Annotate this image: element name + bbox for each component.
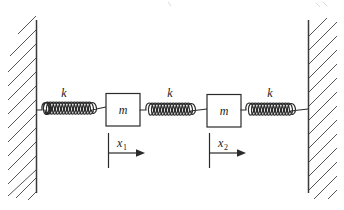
spring-3: k — [241, 86, 308, 115]
x1-label: x — [116, 136, 123, 150]
x2-arrow-head — [237, 149, 246, 157]
coordinate-x1: x 1 — [109, 133, 146, 168]
spring-2: k — [140, 86, 207, 115]
mass-1: m — [106, 94, 140, 127]
mass-2: m — [207, 95, 241, 128]
mass-1-label: m — [119, 103, 128, 117]
left-wall-group — [8, 16, 37, 200]
spring-3-label: k — [267, 86, 273, 100]
x1-label-subscript: 1 — [123, 143, 127, 152]
spring-2-coil — [140, 103, 207, 115]
left-wall-hatching — [8, 16, 36, 200]
spring-mass-diagram: k m k m k x 1 — [0, 0, 344, 210]
x2-label-subscript: 2 — [224, 143, 228, 152]
right-wall-group — [309, 18, 338, 199]
mass-2-label: m — [220, 104, 229, 118]
x2-label: x — [217, 136, 224, 150]
figure-container: k m k m k x 1 — [0, 0, 344, 210]
scan-artifacts — [168, 2, 327, 7]
spring-3-coil — [241, 103, 308, 115]
x1-arrow-head — [136, 149, 145, 157]
right-wall-hatching — [309, 18, 337, 199]
coordinate-x2: x 2 — [210, 133, 247, 168]
spring-1: k — [37, 86, 106, 114]
spring-1-label: k — [61, 86, 67, 100]
spring-2-label: k — [167, 86, 173, 100]
spring-1-coil — [37, 102, 106, 114]
